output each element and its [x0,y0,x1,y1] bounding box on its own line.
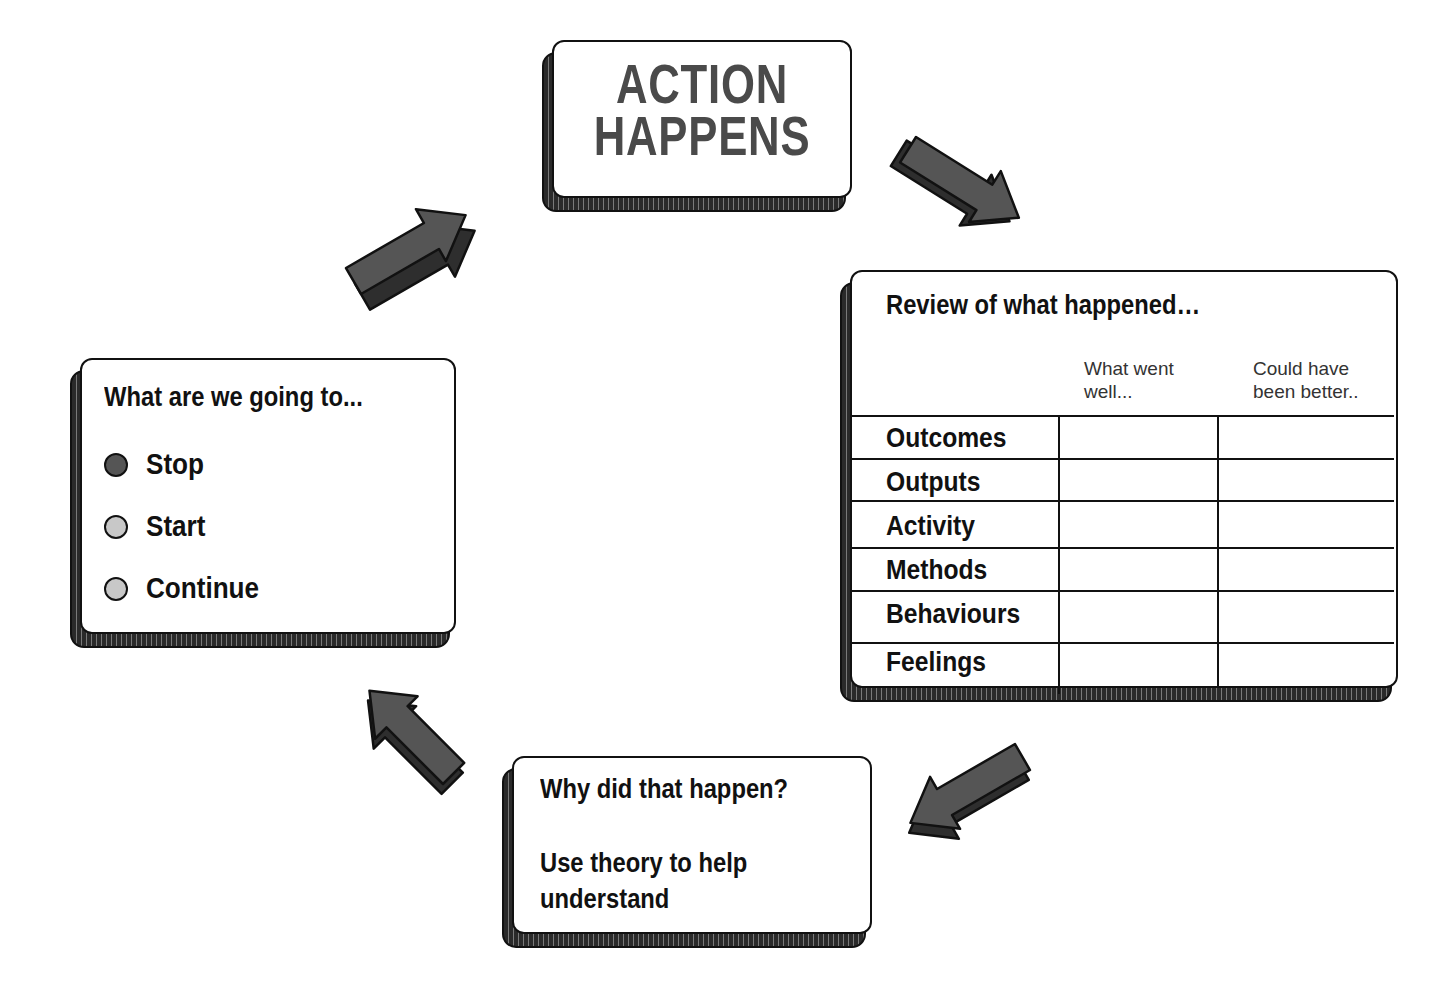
arrow-up-right-icon [336,172,486,282]
title-line-2: HAPPENS [587,110,818,162]
dark-dot-icon [104,453,128,477]
table-divider [852,500,1394,502]
row-label-activity: Activity [886,510,975,542]
column-header-went-well: What went well... [1084,357,1174,403]
row-label-outcomes: Outcomes [886,422,1007,454]
column-header-line: well... [1084,380,1174,403]
option-label: Continue [146,572,259,605]
box-face: Why did that happen? Use theory to help … [512,756,872,934]
table-column-line [1217,415,1219,686]
row-label-feelings: Feelings [886,646,986,678]
light-dot-icon [104,577,128,601]
theory-line-2: understand [540,884,669,915]
table-divider [852,547,1394,549]
title-line-1: ACTION [587,58,818,110]
row-label-methods: Methods [886,554,987,586]
option-label: Stop [146,448,204,481]
review-box: Review of what happened… What went well.… [850,270,1398,688]
why-question: Why did that happen? [540,774,788,805]
arrow-up-left-icon [325,688,455,818]
option-label: Start [146,510,205,543]
column-header-could-be-better: Could have been better.. [1253,357,1359,403]
why-did-that-happen-box: Why did that happen? Use theory to help … [512,756,872,934]
column-header-line: What went [1084,357,1174,380]
theory-line-1: Use theory to help [540,848,747,879]
arrow-down-right-icon [898,125,1048,235]
option-stop: Stop [104,448,210,481]
table-divider [852,415,1394,417]
row-label-outputs: Outputs [886,466,980,498]
column-header-line: Could have [1253,357,1359,380]
table-divider [852,458,1394,460]
box-face: What are we going to... Stop Start Conti… [80,358,456,634]
row-label-behaviours: Behaviours [886,598,1020,630]
what-are-we-going-to-box: What are we going to... Stop Start Conti… [80,358,456,634]
option-start: Start [104,510,212,543]
box-face: ACTION HAPPENS [552,40,852,198]
action-happens-title: ACTION HAPPENS [587,58,818,162]
box-face: Review of what happened… What went well.… [850,270,1398,688]
table-column-line [1058,415,1060,694]
review-title: Review of what happened… [886,290,1200,321]
table-divider [852,642,1394,644]
plan-title: What are we going to... [104,382,363,413]
action-happens-box: ACTION HAPPENS [552,40,852,198]
option-continue: Continue [104,572,272,605]
arrow-down-left-icon [900,740,1050,860]
column-header-line: been better.. [1253,380,1359,403]
table-divider [852,590,1394,592]
light-dot-icon [104,515,128,539]
